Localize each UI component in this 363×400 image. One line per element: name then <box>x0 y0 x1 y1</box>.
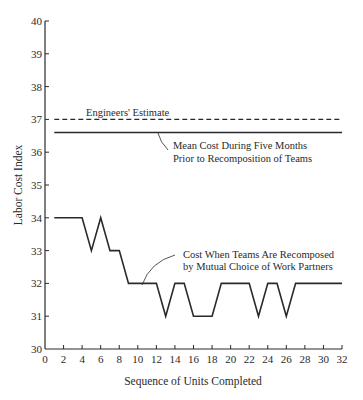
y-tick-label: 34 <box>31 212 43 224</box>
y-ticks: 3031323334353637383940 <box>31 15 49 355</box>
x-tick-label: 2 <box>61 353 67 365</box>
axes <box>45 21 342 349</box>
x-tick-label: 32 <box>337 353 348 365</box>
x-ticks: 02468101214161820222426283032 <box>42 345 347 365</box>
y-tick-label: 32 <box>31 277 42 289</box>
x-tick-label: 20 <box>225 353 237 365</box>
y-tick-label: 35 <box>31 179 43 191</box>
mean-cost-label-line1: Mean Cost During Five Months <box>173 140 307 151</box>
mean-cost-label-line2: Prior to Recomposition of Teams <box>173 153 312 164</box>
x-axis-title: Sequence of Units Completed <box>124 375 262 388</box>
x-tick-label: 18 <box>207 353 219 365</box>
y-tick-label: 40 <box>31 15 43 27</box>
x-tick-label: 6 <box>98 353 104 365</box>
y-tick-label: 31 <box>31 310 42 322</box>
x-tick-label: 10 <box>132 353 144 365</box>
recomposed-label-line2: by Mutual Choice of Work Partners <box>183 261 333 272</box>
y-tick-label: 30 <box>31 343 43 355</box>
x-tick-label: 16 <box>188 353 200 365</box>
x-tick-label: 8 <box>117 353 123 365</box>
x-tick-label: 4 <box>79 353 85 365</box>
x-tick-label: 0 <box>42 353 48 365</box>
x-tick-label: 12 <box>151 353 162 365</box>
y-tick-label: 37 <box>31 113 43 125</box>
y-tick-label: 36 <box>31 146 43 158</box>
x-tick-label: 28 <box>299 353 311 365</box>
x-tick-label: 26 <box>281 353 293 365</box>
x-tick-label: 24 <box>262 353 274 365</box>
y-tick-label: 39 <box>31 48 43 60</box>
mean-cost-leader-line <box>158 133 168 150</box>
y-tick-label: 38 <box>31 81 43 93</box>
labor-cost-chart: 3031323334353637383940 02468101214161820… <box>0 0 363 400</box>
y-tick-label: 33 <box>31 245 43 257</box>
recomposed-leader-line <box>142 255 175 285</box>
recomposed-label-line1: Cost When Teams Are Recomposed <box>183 249 335 260</box>
engineers-estimate-label: Engineers' Estimate <box>86 107 170 118</box>
x-tick-label: 14 <box>169 353 181 365</box>
x-tick-label: 30 <box>318 353 330 365</box>
x-tick-label: 22 <box>244 353 255 365</box>
y-axis-title: Labor Cost Index <box>12 145 24 226</box>
